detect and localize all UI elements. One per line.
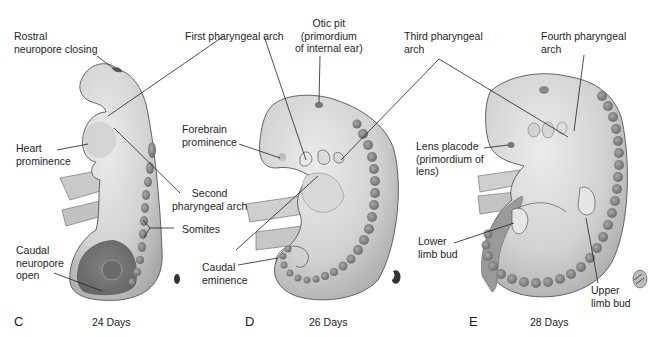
panel-letter-e: E [469,314,478,329]
panel-age-d: 26 Days [309,316,348,328]
label-third-pharyngeal-arch: Third pharyngeal arch [404,30,483,55]
embryo-26-days [246,95,398,300]
panel-letter-d: D [245,314,254,329]
panel-age-e: 28 Days [530,316,569,328]
label-fourth-pharyngeal-arch: Fourth pharyngeal arch [541,30,626,55]
label-second-pharyngeal-arch: Second pharyngeal arch [172,187,247,212]
label-lens-placode: Lens placode (primordium of lens) [416,140,484,178]
embryo-28-days [478,74,627,297]
label-upper-limb-bud: Upper limb bud [591,284,631,309]
label-first-pharyngeal-arch: First pharyngeal arch [185,30,284,43]
label-heart-prominence: Heart prominence [16,142,71,167]
label-rostral-neuropore-closing: Rostral neuropore closing [14,30,97,55]
actual-size-embryo-24 [174,274,180,284]
panel-age-c: 24 Days [92,316,131,328]
panel-letter-c: C [14,314,23,329]
label-caudal-neuropore-open: Caudal neuropore open [16,244,64,282]
label-lower-limb-bud: Lower limb bud [418,235,458,260]
label-caudal-eminence: Caudal eminence [202,261,248,286]
actual-size-embryo-26 [392,270,401,284]
label-otic-pit: Otic pit (primordium of internal ear) [295,17,363,55]
embryo-24-days [60,64,162,301]
label-forebrain-prominence: Forebrain prominence [182,123,237,148]
label-somites: Somites [182,223,220,236]
embryo-development-figure: Rostral neuropore closing Heart prominen… [0,0,663,337]
